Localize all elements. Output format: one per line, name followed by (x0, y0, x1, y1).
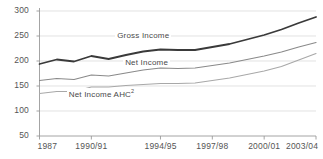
y-tick-label: 50 (3, 130, 29, 140)
y-tick-label: 300 (3, 5, 29, 15)
series-label-2: Net Income AHC2 (67, 88, 137, 99)
x-tick-label: 2003/04 (286, 141, 318, 151)
series-label-0: Gross Income (115, 31, 171, 40)
axis-lines (40, 8, 317, 136)
y-tick-label: 250 (3, 30, 29, 40)
y-tick-label: 150 (3, 80, 29, 90)
chart-canvas (0, 0, 323, 159)
line-chart: 50100150200250300 19871990/911994/951997… (0, 0, 323, 159)
x-tick-label: 1994/95 (144, 141, 176, 151)
data-series-group (40, 17, 317, 94)
x-tick-label: 1990/91 (75, 141, 107, 151)
x-tick-label: 2000/01 (248, 141, 280, 151)
series-line-1 (40, 43, 317, 81)
y-tick-label: 100 (3, 105, 29, 115)
x-tick-label: 1997/98 (196, 141, 228, 151)
series-line-0 (40, 17, 317, 64)
series-label-1: Net Income (123, 58, 170, 67)
x-tick-label: 1987 (38, 141, 58, 151)
x-tick-marks (40, 136, 317, 140)
y-tick-label: 200 (3, 55, 29, 65)
